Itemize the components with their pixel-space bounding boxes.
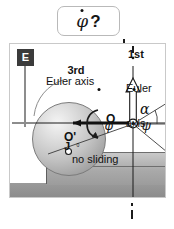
- no-sliding-label: no sliding: [72, 154, 118, 166]
- psi-dot-rate-label: ψ: [120, 91, 151, 147]
- psi-rate-overdot-icon: [133, 88, 136, 91]
- phi-glyph: φ: [76, 11, 88, 31]
- reference-frame-stem: [24, 66, 26, 127]
- diagram-panel: E 3rd Euler axis 1st Euler axis O O'₀ J …: [9, 43, 166, 198]
- phi-dot-rate-label: φ: [83, 91, 113, 147]
- axis-dash-bottom-dash: [131, 210, 133, 219]
- phi-rate-overdot-icon: [97, 88, 100, 91]
- contact-point-label-J: J: [64, 141, 70, 153]
- axis-dash-bottom-dot: [131, 203, 133, 206]
- third-euler-axis-label-line2: Euler axis: [46, 76, 94, 88]
- reference-frame-badge-e: E: [17, 49, 34, 66]
- psi-rate-glyph: ψ: [142, 118, 151, 133]
- phi-rate-glyph: φ: [105, 118, 113, 133]
- phi-dot-symbol: φ: [76, 13, 88, 30]
- phi-dot-callout-box: φ ?: [57, 6, 120, 36]
- alpha-angle-arc: [155, 110, 157, 124]
- euler-axes-figure: φ ?: [0, 0, 174, 229]
- incline-angle-label: α: [140, 102, 149, 117]
- question-mark: ?: [90, 13, 100, 30]
- callout-content: φ ?: [58, 7, 119, 35]
- sphere-center-label-subscript: ₀: [76, 139, 79, 148]
- overdot-icon: [80, 9, 83, 12]
